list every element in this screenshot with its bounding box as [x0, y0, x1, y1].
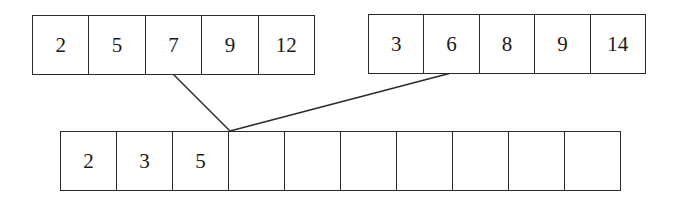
- array-cell-empty: [565, 132, 620, 190]
- array-cell-empty: [397, 132, 453, 190]
- array-cell: 5: [89, 16, 145, 74]
- array-cell: 12: [259, 16, 314, 74]
- array-cell: 8: [480, 15, 535, 73]
- array-cell: 9: [202, 16, 258, 74]
- array-cell: 2: [61, 132, 117, 190]
- array-cell: 7: [146, 16, 202, 74]
- right-input-array: 3 6 8 9 14: [368, 14, 646, 74]
- array-cell: 9: [535, 15, 590, 73]
- array-cell-empty: [229, 132, 285, 190]
- left-input-array: 2 5 7 9 12: [32, 15, 315, 75]
- array-cell-empty: [285, 132, 341, 190]
- array-cell: 3: [117, 132, 173, 190]
- array-cell: 2: [33, 16, 89, 74]
- output-array: 2 3 5: [60, 131, 621, 191]
- array-cell: 6: [424, 15, 479, 73]
- array-cell-empty: [341, 132, 397, 190]
- array-cell: 3: [369, 15, 424, 73]
- array-cell: 14: [591, 15, 645, 73]
- pointer-line-right: [230, 73, 451, 131]
- array-cell: 5: [173, 132, 229, 190]
- array-cell-empty: [453, 132, 509, 190]
- pointer-line-left: [173, 74, 230, 131]
- array-cell-empty: [509, 132, 565, 190]
